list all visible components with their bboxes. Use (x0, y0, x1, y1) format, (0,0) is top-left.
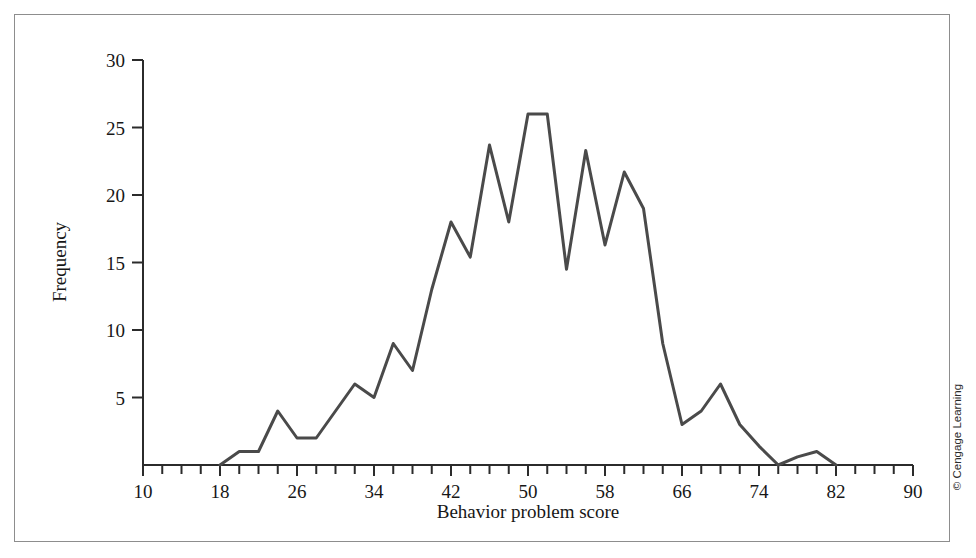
x-tick-label: 18 (211, 481, 230, 502)
y-axis-title: Frequency (49, 221, 70, 302)
x-axis-title: Behavior problem score (437, 501, 620, 522)
figure-root: 51015202530 1018263442505866748290 Behav… (0, 0, 976, 558)
plot-area: 51015202530 1018263442505866748290 Behav… (0, 0, 976, 558)
y-tick-label: 15 (106, 253, 125, 274)
x-tick-label: 34 (365, 481, 385, 502)
x-tick-label: 90 (904, 481, 923, 502)
copyright-credit: © Cengage Learning (951, 384, 963, 490)
x-tick-label: 26 (288, 481, 307, 502)
x-tick-label: 82 (827, 481, 846, 502)
frequency-polygon-chart: 51015202530 1018263442505866748290 Behav… (0, 0, 976, 558)
y-tick-label: 5 (116, 388, 126, 409)
x-tick-label: 10 (134, 481, 153, 502)
x-tick-label: 50 (519, 481, 538, 502)
y-tick-label: 25 (106, 118, 125, 139)
x-tick-label: 66 (673, 481, 692, 502)
x-tick-label: 58 (596, 481, 615, 502)
x-tick-label: 74 (750, 481, 770, 502)
data-series-group (220, 114, 836, 465)
x-tick-label: 42 (442, 481, 461, 502)
credit-anchor: © Cengage Learning (948, 352, 966, 522)
y-axis: 51015202530 (106, 50, 143, 465)
y-tick-label: 30 (106, 50, 125, 71)
y-tick-label: 10 (106, 320, 125, 341)
series-line-frequency (220, 114, 836, 465)
y-tick-label: 20 (106, 185, 125, 206)
x-axis: 1018263442505866748290 (134, 465, 923, 502)
